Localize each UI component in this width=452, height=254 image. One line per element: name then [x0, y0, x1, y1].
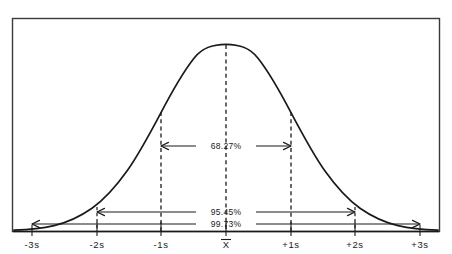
label-interval-68: 68.27% — [211, 141, 242, 151]
axis-label-plus1s: +1s — [282, 239, 299, 250]
axis-label-plus3s: +3s — [411, 239, 428, 250]
axis-label-mean: X — [223, 239, 230, 250]
label-interval-95: 95.45% — [211, 207, 242, 217]
normal-distribution-figure: 68.27% 95.45% 99.73% -3s -2s -1s X +1s — [0, 0, 452, 254]
axis-label-plus2s: +2s — [346, 239, 363, 250]
axis-label-minus3s: -3s — [25, 239, 40, 250]
distribution-chart-svg: 68.27% 95.45% 99.73% -3s -2s -1s X +1s — [0, 0, 452, 254]
label-interval-99: 99.73% — [211, 219, 242, 229]
axis-label-minus1s: -1s — [154, 239, 169, 250]
axis-label-minus2s: -2s — [90, 239, 105, 250]
